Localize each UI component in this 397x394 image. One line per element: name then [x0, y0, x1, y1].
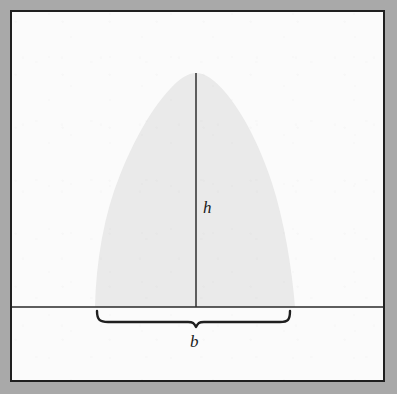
figure-drawing: [0, 0, 397, 394]
base-brace: [97, 311, 290, 327]
parabolic-segment-shape: [95, 73, 295, 307]
base-label-b: b: [190, 333, 199, 350]
figure-root: h b: [0, 0, 397, 394]
height-label-h: h: [203, 199, 212, 216]
